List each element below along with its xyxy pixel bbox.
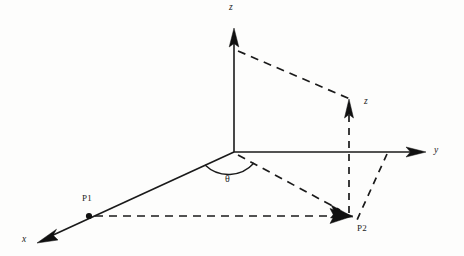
diagram-canvas [0,0,464,256]
z-axis-to-z-height-dashed-line [238,51,350,99]
y-axis-label: y [434,146,438,156]
z-height-label: z [364,97,368,107]
coordinate-diagram: z y x z P1 P2 θ [0,0,464,256]
x-axis-label: x [22,235,26,245]
x-axis-arrowhead [37,229,58,243]
y-axis-to-p2-dashed-line [357,154,387,220]
p2-label: P2 [357,224,367,233]
z-axis-label: z [229,3,233,13]
x-axis-line [51,152,234,236]
p1-label: P1 [82,194,92,203]
theta-label: θ [225,174,230,184]
p1-point-marker [86,213,92,219]
